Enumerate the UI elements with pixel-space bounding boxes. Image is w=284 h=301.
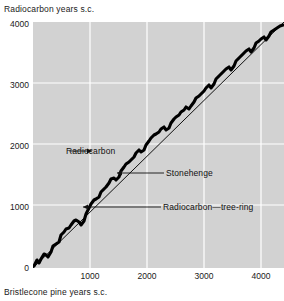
y-tick-label-1000: 1000 (1, 202, 29, 212)
y-tick-label-2000: 2000 (1, 141, 29, 151)
annotation-label-stonehenge: Stonehenge (166, 168, 213, 178)
reference-line-radiocarbon (33, 22, 284, 268)
y-tick-label-4000: 4000 (1, 19, 29, 29)
y-tick-label-0: 0 (1, 263, 29, 273)
plot-area (33, 22, 284, 268)
chart-canvas (33, 22, 284, 268)
x-tick-label-4000: 4000 (241, 271, 281, 281)
y-axis-title: Radiocarbon years s.c. (4, 4, 94, 14)
annotation-arrow-stonehenge (117, 171, 164, 176)
x-tick-label-1000: 1000 (70, 271, 110, 281)
annotation-label-radiocarbon: Radiocarbon (66, 146, 115, 156)
x-tick-label-3000: 3000 (184, 271, 224, 281)
chart-figure: Radiocarbon years s.c. 4000 3000 2000 10… (0, 0, 284, 301)
x-axis-title: Bristlecone pine years s.c. (4, 287, 107, 297)
y-tick-label-3000: 3000 (1, 80, 29, 90)
annotation-label-radiocarbon-tree-ring: Radiocarbon—tree-ring (163, 202, 253, 212)
x-tick-label-2000: 2000 (127, 271, 167, 281)
